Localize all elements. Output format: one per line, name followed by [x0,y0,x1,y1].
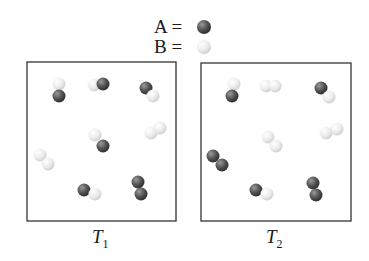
atom-b-icon [331,123,344,136]
atom-b-icon [89,188,102,201]
container-box-t2 [201,63,351,221]
atom-a-icon [53,90,66,103]
atom-a-icon [307,177,320,190]
atom-a-icon [310,189,323,202]
atom-a-icon [132,176,145,189]
legend-b-sphere-icon [197,40,211,54]
atom-b-icon [270,140,283,153]
atom-b-icon [154,122,167,135]
atom-a-icon [97,140,110,153]
atom-b-icon [323,91,336,104]
box-t2-label: T2 [266,226,283,252]
atom-a-icon [216,159,229,172]
atom-b-icon [42,158,55,171]
box-t1-label: T1 [92,226,109,252]
atom-b-icon [53,78,66,91]
atom-a-icon [97,78,110,91]
molecule-diagram [0,0,369,261]
legend-a-sphere-icon [197,20,211,34]
atom-a-icon [135,188,148,201]
atom-b-icon [147,90,160,103]
atom-b-icon [228,78,241,91]
atom-a-icon [226,90,239,103]
atom-b-icon [269,80,282,93]
atom-b-icon [261,188,274,201]
atom-b-icon [89,129,102,142]
container-box-t1 [27,62,176,221]
